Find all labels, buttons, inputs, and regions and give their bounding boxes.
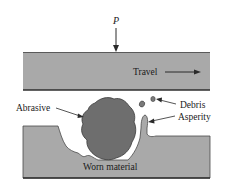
- arrow-icon: [148, 119, 155, 124]
- load-label: P: [112, 15, 119, 26]
- debris-callout: Debris: [156, 98, 206, 111]
- debris-label: Debris: [180, 100, 206, 110]
- worn-material-label: Worn material: [83, 162, 138, 172]
- arrow-down-icon: [113, 45, 119, 52]
- debris-particles: [138, 96, 155, 107]
- asperity-callout: Asperity: [148, 112, 211, 124]
- asperity-label: Asperity: [178, 112, 211, 122]
- abrasive-label: Abrasive: [16, 103, 50, 113]
- abrasive-particle: [82, 98, 136, 160]
- travel-label: Travel: [133, 67, 158, 77]
- load-arrow: P: [112, 15, 119, 52]
- upper-surface: Travel: [23, 52, 210, 90]
- abrasive-callout: Abrasive: [16, 103, 84, 118]
- abrasive-wear-diagram: P Travel Worn material Abrasive Debris: [0, 0, 230, 189]
- arrow-icon: [156, 98, 162, 103]
